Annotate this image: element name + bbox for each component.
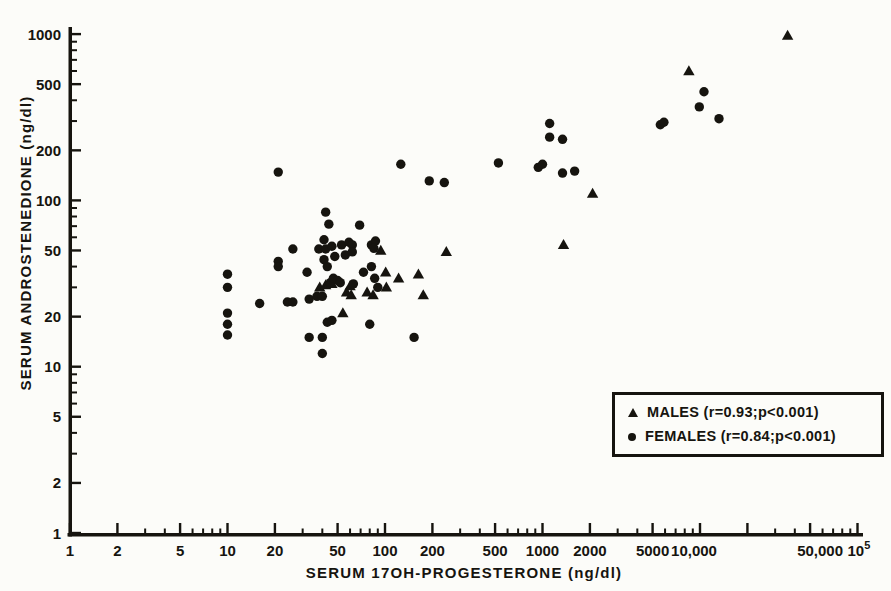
- svg-text:10: 10: [219, 542, 236, 559]
- svg-text:5: 5: [176, 542, 184, 559]
- svg-text:5: 5: [53, 408, 61, 425]
- scatter-plot: 12510205010020050010002000500010,00050,0…: [0, 0, 891, 591]
- svg-text:100: 100: [372, 542, 397, 559]
- svg-text:1: 1: [66, 542, 74, 559]
- svg-text:100: 100: [36, 192, 61, 209]
- svg-text:1000: 1000: [28, 26, 61, 43]
- legend: MALES (r=0.93;p<0.001) FEMALES (r=0.84;p…: [612, 392, 884, 457]
- svg-text:10,000: 10,000: [671, 542, 717, 559]
- y-axis-title: SERUM ANDROSTENEDIONE (ng/dl): [17, 95, 34, 390]
- svg-text:200: 200: [36, 142, 61, 159]
- svg-text:200: 200: [420, 542, 445, 559]
- svg-text:2000: 2000: [573, 542, 606, 559]
- circle-marker-icon: [628, 433, 636, 441]
- svg-text:500: 500: [36, 76, 61, 93]
- svg-text:1000: 1000: [526, 542, 559, 559]
- svg-text:50: 50: [44, 242, 61, 259]
- svg-text:20: 20: [267, 542, 284, 559]
- svg-text:105: 105: [848, 539, 871, 559]
- svg-text:1: 1: [53, 525, 61, 542]
- svg-text:50,000: 50,000: [797, 542, 843, 559]
- legend-item-males: MALES (r=0.93;p<0.001): [628, 403, 881, 422]
- figure: 12510205010020050010002000500010,00050,0…: [0, 0, 891, 591]
- legend-label-males: MALES (r=0.93;p<0.001): [647, 403, 819, 422]
- svg-text:20: 20: [44, 308, 61, 325]
- legend-label-females: FEMALES (r=0.84;p<0.001): [645, 427, 836, 446]
- svg-text:50: 50: [329, 542, 346, 559]
- triangle-marker-icon: [628, 408, 638, 417]
- legend-item-females: FEMALES (r=0.84;p<0.001): [628, 427, 881, 446]
- svg-text:2: 2: [113, 542, 121, 559]
- svg-text:2: 2: [53, 474, 61, 491]
- svg-text:10: 10: [44, 358, 61, 375]
- svg-text:5000: 5000: [636, 542, 669, 559]
- x-axis-title: SERUM 17OH-PROGESTERONE (ng/dl): [306, 564, 622, 581]
- svg-text:500: 500: [483, 542, 508, 559]
